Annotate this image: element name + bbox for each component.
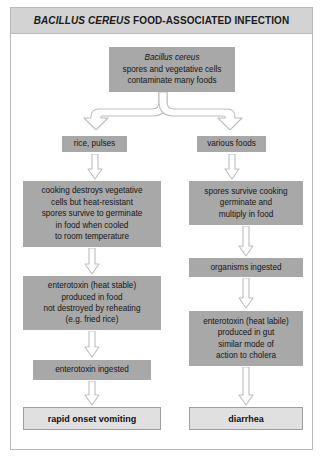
node-left-toxin: enterotoxin (heat stable) produced in fo… <box>23 276 161 330</box>
node-left-toxin-line2: produced in food <box>61 293 122 302</box>
node-left-cooking-line1: cooking destroys vegetative <box>41 186 142 195</box>
node-right-toxin-line2: produced in gut <box>218 328 274 337</box>
page-title: BACILLUS CEREUS FOOD-ASSOCIATED INFECTIO… <box>34 15 290 26</box>
arrow-right-food-to-spores <box>224 154 240 180</box>
node-source-line2: spores and vegetative cells <box>123 65 222 74</box>
arrow-spores-to-organisms <box>238 226 254 257</box>
branch-connector <box>73 92 253 130</box>
node-right-toxin-line1: enterotoxin (heat labile) <box>203 317 289 326</box>
node-right-spores-line3: multiply in food <box>219 210 274 219</box>
arrow-left-food-to-cooking <box>87 154 103 180</box>
node-right-spores-line2: germinate and <box>220 198 272 207</box>
node-left-ingested: enterotoxin ingested <box>33 360 151 380</box>
outcome-left-vomiting: rapid onset vomiting <box>23 407 161 430</box>
node-left-food: rice, pulses <box>62 136 127 152</box>
title-species: BACILLUS CEREUS <box>34 15 131 26</box>
node-right-food: various foods <box>197 136 266 152</box>
node-left-cooking-line2: cells but heat-resistant <box>51 198 133 207</box>
node-right-toxin-line4: action to cholera <box>216 351 276 360</box>
node-source: Bacillus cereus spores and vegetative ce… <box>109 47 235 92</box>
node-left-toxin-line3: not destroyed by reheating <box>44 304 141 313</box>
arrow-right-toxin-to-diarrhea <box>238 367 254 406</box>
diagram-title-bar: BACILLUS CEREUS FOOD-ASSOCIATED INFECTIO… <box>11 8 312 34</box>
arrow-organisms-to-right-toxin <box>238 278 254 309</box>
node-right-toxin: enterotoxin (heat labile) produced in gu… <box>189 311 303 366</box>
node-source-line1: Bacillus cereus <box>144 53 199 62</box>
node-right-spores: spores survive cooking germinate and mul… <box>189 181 303 225</box>
node-left-toxin-line1: enterotoxin (heat stable) <box>48 281 136 290</box>
title-rest: FOOD-ASSOCIATED INFECTION <box>130 15 289 26</box>
node-left-cooking: cooking destroys vegetative cells but he… <box>23 181 161 247</box>
node-right-organisms: organisms ingested <box>189 258 303 277</box>
node-source-line3: contaminate many foods <box>127 76 216 85</box>
node-right-toxin-line3: similar mode of <box>218 340 274 349</box>
arrow-ingested-to-vomiting <box>84 381 100 406</box>
diagram-frame: BACILLUS CEREUS FOOD-ASSOCIATED INFECTIO… <box>10 7 313 450</box>
arrow-cooking-to-left-toxin <box>84 248 100 275</box>
outcome-right-diarrhea: diarrhea <box>189 407 303 430</box>
arrow-left-toxin-to-ingested <box>84 331 100 358</box>
node-right-spores-line1: spores survive cooking <box>204 187 287 196</box>
node-left-toxin-line4: (e.g. fried rice) <box>66 315 119 324</box>
node-left-cooking-line3: spores survive to germinate <box>42 209 143 218</box>
node-left-cooking-line4: in food when cooled <box>56 221 129 230</box>
node-left-cooking-line5: to room temperature <box>55 232 129 241</box>
